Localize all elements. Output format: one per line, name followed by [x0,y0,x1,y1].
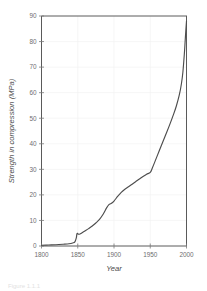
y-tick-label: 60 [29,89,37,96]
compressive-strength-line-chart: 0102030405060708090 18001850190019502000… [0,0,207,291]
figure-caption-fragment: Figure 1.1.1 [8,283,41,289]
y-tick-label: 80 [29,38,37,45]
x-tick-label: 1800 [34,251,49,258]
y-tick-label: 30 [29,166,37,173]
x-tick-label: 2000 [179,251,194,258]
y-tick-label: 90 [29,12,37,19]
y-axis-title: Strength in compression (MPa) [7,78,16,183]
y-tick-label: 40 [29,140,37,147]
x-axis-title: Year [106,264,122,273]
y-tick-label: 0 [33,242,37,249]
x-tick-label: 1950 [143,251,158,258]
figure-container: 0102030405060708090 18001850190019502000… [0,0,207,291]
y-tick-label: 50 [29,115,37,122]
x-tick-label: 1850 [71,251,86,258]
y-tick-label: 20 [29,191,37,198]
x-tick-label: 1900 [107,251,122,258]
y-tick-label: 10 [29,217,37,224]
y-tick-label: 70 [29,63,37,70]
